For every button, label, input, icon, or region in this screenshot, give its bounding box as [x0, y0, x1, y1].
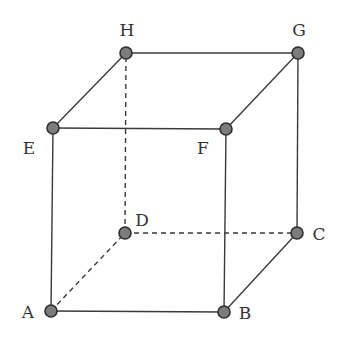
cube-figure: ABCDEFGH — [0, 0, 343, 340]
vertex-a — [45, 305, 57, 317]
vertex-e — [47, 122, 59, 134]
vertex-b — [218, 306, 230, 318]
edge-fg — [226, 53, 298, 129]
edge-bf — [224, 129, 226, 312]
edge-ab — [51, 311, 224, 312]
vertex-c — [291, 227, 303, 239]
vertex-label-g: G — [292, 20, 306, 40]
vertex-label-f: F — [197, 138, 209, 158]
edge-dh — [125, 53, 126, 233]
edges-layer — [51, 53, 298, 312]
vertex-g — [292, 47, 304, 59]
edge-ae — [51, 128, 53, 311]
vertex-label-a: A — [21, 302, 35, 322]
edge-cg — [297, 53, 298, 233]
cube-diagram: ABCDEFGH — [0, 0, 343, 340]
vertex-label-d: D — [135, 210, 149, 230]
edge-he — [53, 53, 126, 128]
labels-layer: ABCDEFGH — [21, 20, 326, 323]
vertex-label-b: B — [239, 303, 252, 323]
vertex-label-c: C — [312, 224, 325, 244]
vertex-f — [220, 123, 232, 135]
vertex-label-e: E — [23, 138, 35, 158]
edge-ef — [53, 128, 226, 129]
vertex-d — [119, 227, 131, 239]
edge-bc — [224, 233, 297, 312]
edge-ad — [51, 233, 125, 311]
vertex-label-h: H — [120, 20, 135, 40]
vertex-h — [120, 47, 132, 59]
